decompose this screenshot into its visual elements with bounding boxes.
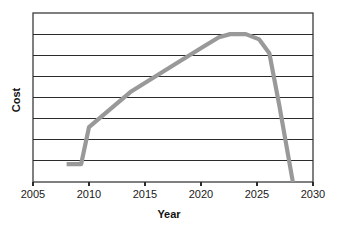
- x-tick-label-2010: 2010: [77, 188, 101, 200]
- cost-vs-year-chart: 200520102015202020252030 Year Cost: [0, 0, 338, 233]
- x-tick-label-2005: 2005: [21, 188, 45, 200]
- x-axis-tickmarks: [33, 182, 313, 186]
- x-axis-title: Year: [157, 208, 181, 220]
- x-tick-label-2030: 2030: [301, 188, 325, 200]
- x-tick-label-2025: 2025: [245, 188, 269, 200]
- y-axis-title: Cost: [10, 87, 22, 112]
- x-axis-tick-labels: 200520102015202020252030: [21, 188, 325, 200]
- x-tick-label-2020: 2020: [189, 188, 213, 200]
- chart-canvas: 200520102015202020252030 Year Cost: [0, 0, 338, 233]
- x-tick-label-2015: 2015: [133, 188, 157, 200]
